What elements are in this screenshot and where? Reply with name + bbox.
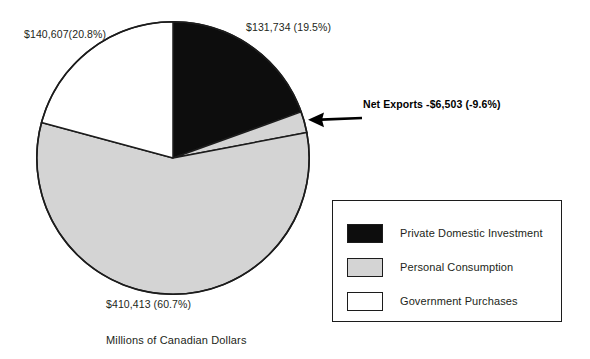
- pie-chart-figure: $131,734 (19.5%) $140,607(20.8%) $410,41…: [0, 0, 590, 359]
- legend-item-private-domestic-investment: Private Domestic Investment: [347, 222, 543, 244]
- slice-label-private-domestic-investment: $131,734 (19.5%): [246, 21, 331, 34]
- legend-swatch-white: [347, 292, 383, 311]
- legend-swatch-black: [347, 224, 383, 243]
- legend-label-private-domestic-investment: Private Domestic Investment: [400, 227, 543, 239]
- callout-arrow-icon: [305, 106, 365, 132]
- pie-chart: [36, 21, 310, 295]
- pie-svg: [36, 21, 310, 295]
- callout-label-net-exports: Net Exports -$6,503 (-9.6%): [363, 98, 501, 110]
- chart-legend: Private Domestic Investment Personal Con…: [332, 200, 562, 322]
- slice-label-government-purchases: $140,607(20.8%): [24, 28, 106, 41]
- legend-label-government-purchases: Government Purchases: [400, 295, 518, 307]
- legend-swatch-gray: [347, 258, 383, 277]
- legend-label-personal-consumption: Personal Consumption: [400, 261, 513, 273]
- slice-label-personal-consumption: $410,413 (60.7%): [106, 298, 191, 311]
- legend-item-government-purchases: Government Purchases: [347, 290, 518, 312]
- legend-item-personal-consumption: Personal Consumption: [347, 256, 513, 278]
- chart-caption: Millions of Canadian Dollars: [106, 334, 247, 346]
